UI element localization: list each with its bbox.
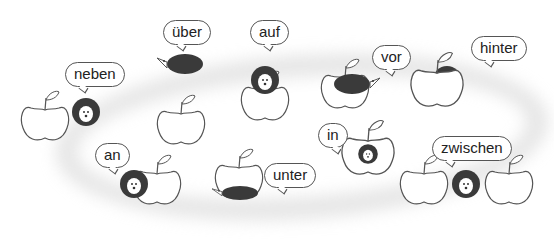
bubble-hinter: hinter (471, 36, 527, 61)
bubble-auf: auf (250, 20, 289, 45)
bubble-unter: unter (264, 163, 316, 188)
bubble-an: an (95, 143, 130, 168)
scene-neben (21, 91, 68, 140)
bubble-zwischen: zwischen (432, 136, 512, 161)
bubble-vor: vor (372, 45, 411, 70)
bubble-in: in (318, 123, 348, 148)
bubble-ueber: über (163, 20, 211, 45)
bubble-neben: neben (65, 62, 125, 87)
